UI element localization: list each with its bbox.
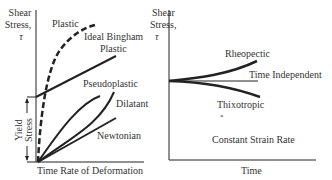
constant-strain-rate-label: Constant Strain Rate xyxy=(212,134,295,145)
right-y-label-3: τ xyxy=(155,31,159,42)
newtonian-label: Newtonian xyxy=(97,130,141,141)
rheopectic-label: Rheopectic xyxy=(225,48,271,59)
dilatant-label: Dilatant xyxy=(116,98,148,109)
rheopectic-curve xyxy=(169,61,257,81)
dilatant-curve xyxy=(38,92,114,162)
yield-arrowhead-up xyxy=(25,98,29,103)
left-y-label-3: τ xyxy=(19,31,23,42)
yield-label-2: Stress xyxy=(23,118,34,142)
marker-dot: * xyxy=(220,113,224,121)
right-chart: Shear Stress, τ Rheopectic Time Independ… xyxy=(150,7,322,176)
pseudoplastic-curve xyxy=(38,96,100,162)
left-y-label-2: Stress, xyxy=(5,19,31,30)
bingham-label-1: Ideal Bingham xyxy=(84,31,143,42)
right-x-label: Time xyxy=(241,165,262,176)
bingham-label-2: Plastic xyxy=(100,43,127,54)
right-y-label-1: Shear xyxy=(152,7,175,18)
left-chart: Shear Stress, τ Yield Stress Plastic Ide… xyxy=(5,7,149,176)
thixotropic-label: Thixotropic xyxy=(217,99,265,110)
left-x-label: Time Rate of Deformation xyxy=(37,165,143,176)
plastic-label: Plastic xyxy=(52,18,79,29)
thixotropic-curve xyxy=(169,81,260,97)
rheology-diagram: Shear Stress, τ Yield Stress Plastic Ide… xyxy=(0,0,332,180)
yield-arrowhead-down xyxy=(25,156,29,161)
right-y-label-2: Stress, xyxy=(150,19,176,30)
time-independent-label: Time Independent xyxy=(249,69,322,80)
left-y-label-1: Shear xyxy=(9,7,32,18)
pseudoplastic-label: Pseudoplastic xyxy=(83,78,139,89)
